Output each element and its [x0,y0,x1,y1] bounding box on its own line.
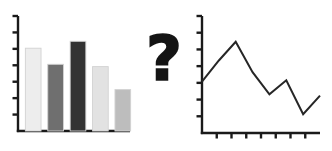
line-chart-axes [197,16,321,139]
bar [93,67,109,131]
line-chart-panel [190,0,332,151]
line-chart-series [202,42,320,115]
bar [25,48,41,131]
line-chart-svg [190,0,332,151]
bar [48,64,64,131]
question-mark-glyph: ? [146,28,182,90]
line-series-path [202,42,320,115]
bar-chart-series [25,41,130,131]
bar-chart-svg [0,0,140,151]
question-mark-icon: ? [138,24,190,94]
bar [70,41,86,131]
figure-canvas: ? [0,0,332,151]
bar [115,90,131,131]
bar-chart-panel [0,0,140,151]
